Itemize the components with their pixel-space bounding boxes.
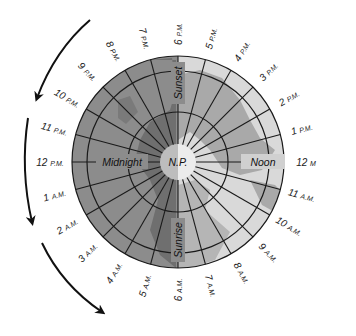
rotation-arrow-2 bbox=[25, 118, 32, 222]
hour-label: 12 M bbox=[296, 157, 316, 168]
hour-label: 2 A.M. bbox=[54, 216, 80, 237]
hour-label: 6 P.M. bbox=[173, 23, 184, 45]
hour-label: 3 A.M. bbox=[76, 241, 100, 265]
hour-label: 7 A.M. bbox=[203, 273, 220, 298]
rotation-arrow-1 bbox=[37, 20, 90, 98]
midnight-label: Midnight bbox=[102, 156, 143, 168]
hour-label: 1 A.M. bbox=[42, 187, 67, 204]
hour-label: 10 P.M. bbox=[52, 86, 81, 109]
hour-label: 10 A.M. bbox=[274, 214, 304, 238]
hour-label: 11 P.M. bbox=[40, 120, 69, 138]
hour-label: 9 P.M. bbox=[76, 60, 99, 83]
hour-label: 5 P.M. bbox=[203, 26, 219, 50]
noon-label: Noon bbox=[250, 156, 275, 168]
polar-day-night-diagram: N.P. Midnight Noon Sunset Sunrise 12 M1 … bbox=[0, 0, 356, 336]
hour-label: 12 P.M. bbox=[36, 157, 63, 168]
hour-label: 7 P.M. bbox=[137, 26, 153, 50]
hour-label: 2 P.M. bbox=[276, 88, 301, 109]
hour-label: 6 A.M. bbox=[173, 279, 184, 302]
hour-label: 9 A.M. bbox=[257, 241, 281, 265]
hour-label: 4 A.M. bbox=[104, 260, 125, 285]
hour-label: 3 P.M. bbox=[257, 60, 280, 83]
hour-label: 5 A.M. bbox=[137, 273, 154, 298]
hour-label: 8 P.M. bbox=[104, 39, 124, 63]
hour-label: 8 A.M. bbox=[232, 260, 253, 285]
sunrise-label: Sunrise bbox=[172, 222, 184, 258]
hour-label: 4 P.M. bbox=[232, 39, 252, 63]
hour-label: 11 A.M. bbox=[287, 186, 317, 204]
north-pole-label: N.P. bbox=[168, 156, 187, 168]
sunset-label: Sunset bbox=[172, 66, 184, 100]
hour-label: 1 P.M. bbox=[290, 121, 314, 137]
